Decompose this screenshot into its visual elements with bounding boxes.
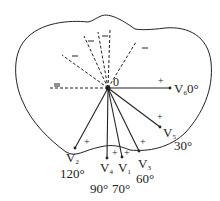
negative-signs [54, 36, 148, 86]
origin-point [106, 86, 111, 91]
plus-v5: + [157, 111, 163, 122]
plus-v1: + [124, 147, 130, 158]
plus-v4: + [112, 147, 118, 158]
label-v6: V60° [174, 81, 199, 97]
svg-text:V4: V4 [100, 160, 113, 176]
svg-text:V60°: V60° [174, 81, 199, 97]
lead-axis-diagram: 0 + + + + + + V60° V5 30° V3 60° V1 70° … [0, 0, 220, 201]
plus-v6: + [158, 75, 164, 86]
label-v4: V4 90° [90, 160, 113, 196]
label-v3: V3 60° [136, 156, 154, 186]
origin-label: 0 [113, 75, 119, 89]
label-v1: V1 70° [112, 160, 131, 196]
label-v2: V2 120° [60, 150, 85, 181]
svg-text:30°: 30° [174, 138, 192, 153]
svg-text:V3: V3 [138, 156, 151, 172]
axis-v3 [108, 88, 139, 151]
svg-text:60°: 60° [136, 171, 154, 186]
negative-axes [48, 30, 136, 88]
svg-text:V1: V1 [118, 160, 131, 176]
svg-text:90°: 90° [90, 181, 108, 196]
svg-text:70°: 70° [112, 181, 130, 196]
plus-v3: + [140, 136, 146, 147]
axis-v4 [107, 88, 108, 158]
plus-v2: + [84, 136, 90, 147]
axis-v2 [75, 88, 108, 148]
svg-text:V2: V2 [66, 150, 79, 166]
axis-v5 [108, 88, 160, 127]
svg-text:120°: 120° [60, 166, 85, 181]
